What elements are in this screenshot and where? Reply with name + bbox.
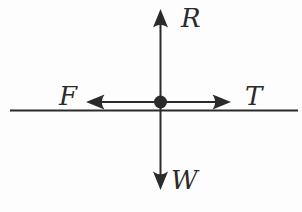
free-body-diagram: R F T W: [0, 0, 302, 212]
diagram-canvas: R F T W: [0, 0, 302, 212]
label-left-force: F: [58, 81, 78, 111]
particle-dot: [154, 96, 167, 109]
label-up-force: R: [180, 3, 201, 33]
label-right-force: T: [245, 81, 264, 111]
label-down-force: W: [171, 165, 200, 195]
